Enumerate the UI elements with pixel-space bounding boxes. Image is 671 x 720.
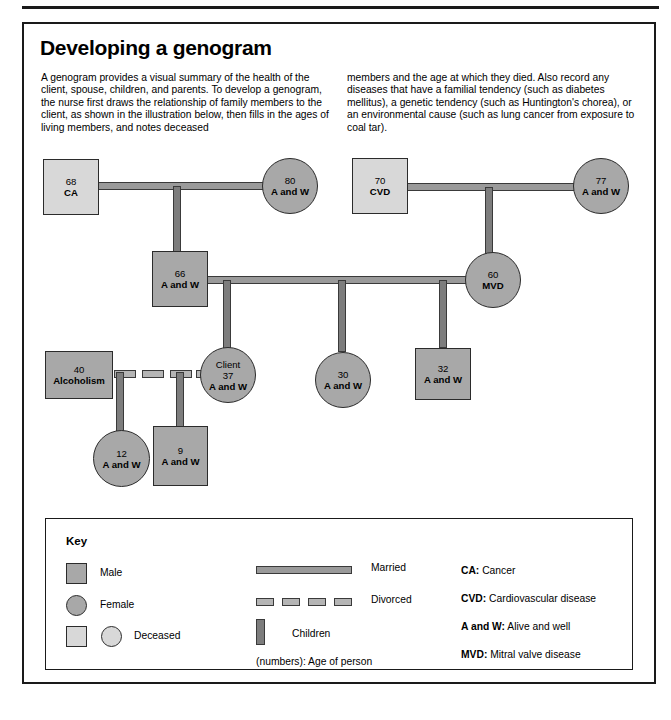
marriage-line-paternal bbox=[96, 182, 266, 190]
key-label: (numbers): Age of person bbox=[256, 656, 372, 667]
node-gf-paternal[interactable]: 68 CA bbox=[43, 159, 99, 215]
node-ex-spouse[interactable]: 40 Alcoholism bbox=[45, 351, 113, 399]
node-mother[interactable]: 60 MVD bbox=[465, 252, 521, 308]
node-age: 9 bbox=[178, 445, 183, 456]
node-condition: A and W bbox=[324, 380, 362, 391]
node-condition: A and W bbox=[161, 279, 199, 290]
node-age: 40 bbox=[74, 364, 85, 375]
key-row-divorced: Divorced bbox=[256, 597, 352, 608]
node-age: 37 bbox=[223, 370, 234, 381]
abbr-term: MVD: bbox=[461, 649, 487, 660]
node-condition: Alcoholism bbox=[53, 375, 105, 386]
node-age: 80 bbox=[285, 175, 296, 186]
node-father[interactable]: 66 A and W bbox=[152, 251, 208, 307]
node-age: 30 bbox=[338, 369, 349, 380]
abbr-meaning: Mitral valve disease bbox=[490, 649, 580, 660]
child-line-9 bbox=[176, 372, 184, 432]
key-row-deceased: Deceased bbox=[66, 626, 122, 649]
node-condition: MVD bbox=[482, 280, 503, 291]
key-row-male: Male bbox=[66, 563, 87, 586]
key-legend-box: Key Male Female Deceased Married Divorce… bbox=[45, 518, 633, 670]
key-row-female: Female bbox=[66, 595, 87, 618]
key-row-numbers-note: (numbers): Age of person bbox=[256, 656, 372, 667]
node-condition: A and W bbox=[424, 374, 462, 385]
abbr-meaning: Alive and well bbox=[507, 621, 570, 632]
node-condition: A and W bbox=[582, 186, 620, 197]
key-abbr-aw: A and W: Alive and well bbox=[461, 621, 570, 632]
node-age: 32 bbox=[438, 363, 449, 374]
divorced-line-icon bbox=[256, 598, 352, 606]
bottom-caption bbox=[22, 700, 659, 716]
abbr-term: CVD: bbox=[461, 593, 486, 604]
key-row-married: Married bbox=[256, 565, 352, 576]
node-client[interactable]: Client 37 A and W bbox=[200, 347, 256, 403]
female-circle-icon bbox=[66, 595, 87, 616]
key-abbr-cvd: CVD: Cardiovascular disease bbox=[461, 593, 596, 604]
descent-line-paternal bbox=[173, 186, 181, 256]
deceased-circle-icon bbox=[101, 626, 122, 647]
married-line-icon bbox=[256, 566, 352, 574]
key-abbr-mvd: MVD: Mitral valve disease bbox=[461, 649, 581, 660]
node-child-12[interactable]: 12 A and W bbox=[93, 430, 150, 487]
key-label: Married bbox=[371, 562, 406, 573]
abbr-meaning: Cancer bbox=[482, 565, 515, 576]
key-label: Male bbox=[100, 567, 122, 578]
abbr-meaning: Cardiovascular disease bbox=[489, 593, 596, 604]
node-child-9[interactable]: 9 A and W bbox=[153, 426, 208, 486]
key-label: Divorced bbox=[371, 594, 412, 605]
divorce-line-segment bbox=[142, 370, 164, 378]
node-condition: CVD bbox=[370, 186, 390, 197]
node-age: 68 bbox=[66, 176, 77, 187]
node-condition: A and W bbox=[161, 456, 199, 467]
node-client-label: Client bbox=[216, 359, 241, 370]
node-condition: A and W bbox=[209, 381, 247, 392]
node-gf-maternal[interactable]: 70 CVD bbox=[352, 158, 408, 214]
node-gm-paternal[interactable]: 80 A and W bbox=[262, 158, 318, 214]
node-age: 12 bbox=[116, 448, 127, 459]
node-gm-maternal[interactable]: 77 A and W bbox=[573, 158, 629, 214]
key-title: Key bbox=[66, 535, 87, 547]
node-age: 77 bbox=[596, 175, 607, 186]
child-line-12 bbox=[116, 372, 124, 438]
node-condition: A and W bbox=[271, 186, 309, 197]
node-age: 70 bbox=[375, 175, 386, 186]
children-line-icon bbox=[256, 619, 265, 645]
key-abbr-ca: CA: Cancer bbox=[461, 565, 515, 576]
child-line-sibling-30 bbox=[338, 280, 346, 352]
node-age: 60 bbox=[488, 269, 499, 280]
key-label: Female bbox=[100, 599, 134, 610]
abbr-term: CA: bbox=[461, 565, 479, 576]
abbr-term: A and W: bbox=[461, 621, 505, 632]
descent-line-maternal bbox=[485, 187, 493, 257]
node-condition: A and W bbox=[102, 459, 140, 470]
node-condition: CA bbox=[64, 187, 78, 198]
key-row-children: Children bbox=[256, 619, 265, 647]
male-square-icon bbox=[66, 563, 87, 584]
marriage-line-parents bbox=[204, 276, 470, 284]
child-line-sibling-32 bbox=[439, 280, 447, 348]
node-sibling-32[interactable]: 32 A and W bbox=[415, 348, 471, 400]
child-line-client bbox=[223, 280, 231, 350]
genogram-diagram: 68 CA 80 A and W 70 CVD 77 A and W 66 A … bbox=[0, 0, 671, 520]
node-age: 66 bbox=[175, 268, 186, 279]
key-label: Children bbox=[292, 628, 330, 639]
node-sibling-30[interactable]: 30 A and W bbox=[315, 352, 371, 408]
deceased-square-icon bbox=[66, 626, 87, 647]
key-label: Deceased bbox=[134, 630, 180, 641]
